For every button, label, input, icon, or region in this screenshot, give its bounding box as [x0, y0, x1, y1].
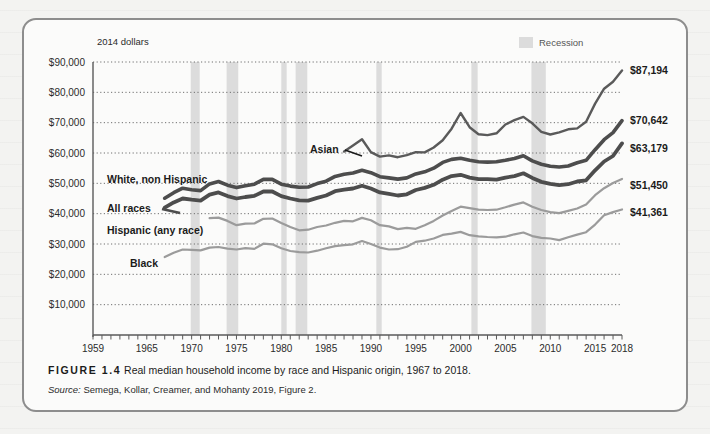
source-prefix: Source: — [48, 384, 81, 395]
series-label-asian: Asian — [310, 143, 339, 155]
y-tick-label-30000: $30,000 — [49, 239, 86, 250]
x-tick-label-1959: 1959 — [82, 343, 105, 354]
figure-number: FIGURE 1.4 — [48, 364, 121, 376]
x-tick-label-2015: 2015 — [584, 343, 607, 354]
figure-caption-text: Real median household income by race and… — [124, 364, 471, 376]
end-value-label-asian: $87,194 — [630, 64, 668, 76]
legend-recession-label: Recession — [539, 37, 583, 48]
series-label-hispanic-any-race: Hispanic (any race) — [107, 224, 203, 236]
x-tick-label-2010: 2010 — [539, 343, 562, 354]
recession-band-4 — [376, 62, 381, 335]
figure-caption: FIGURE 1.4 Real median household income … — [48, 363, 648, 377]
y-tick-label-40000: $40,000 — [49, 208, 86, 219]
x-tick-label-2000: 2000 — [449, 343, 472, 354]
y-tick-label-60000: $60,000 — [49, 148, 86, 159]
x-tick-label-1965: 1965 — [136, 343, 159, 354]
recession-band-6 — [531, 62, 545, 335]
units-note: 2014 dollars — [97, 36, 149, 47]
x-tick-label-1985: 1985 — [315, 343, 338, 354]
end-value-label-white-non-hispanic: $70,642 — [630, 114, 668, 126]
x-tick-label-1980: 1980 — [270, 343, 293, 354]
end-value-label-black: $41,361 — [630, 206, 668, 218]
legend-recession-swatch — [519, 37, 533, 48]
recession-band-5 — [471, 62, 477, 335]
x-tick-label-2005: 2005 — [494, 343, 517, 354]
end-value-label-hispanic-any-race: $51,450 — [630, 179, 668, 191]
series-label-white-non-hispanic: White, non Hispanic — [107, 173, 207, 185]
x-tick-label-1975: 1975 — [225, 343, 248, 354]
y-tick-label-80000: $80,000 — [49, 87, 86, 98]
x-tick-label-1995: 1995 — [405, 343, 428, 354]
y-tick-label-90000: $90,000 — [49, 57, 86, 68]
x-tick-label-2018: 2018 — [611, 343, 634, 354]
series-label-all-races: All races — [107, 202, 151, 214]
y-tick-label-50000: $50,000 — [49, 178, 86, 189]
source-text: Semega, Kollar, Creamer, and Mohanty 201… — [83, 384, 316, 395]
figure-source: Source: Semega, Kollar, Creamer, and Moh… — [48, 384, 648, 395]
y-tick-label-20000: $20,000 — [49, 269, 86, 280]
x-tick-label-1990: 1990 — [360, 343, 383, 354]
x-tick-label-1970: 1970 — [181, 343, 204, 354]
y-tick-label-70000: $70,000 — [49, 117, 86, 128]
end-value-label-all-races: $63,179 — [630, 142, 668, 154]
series-label-black: Black — [130, 257, 158, 269]
y-tick-label-10000: $10,000 — [49, 299, 86, 310]
